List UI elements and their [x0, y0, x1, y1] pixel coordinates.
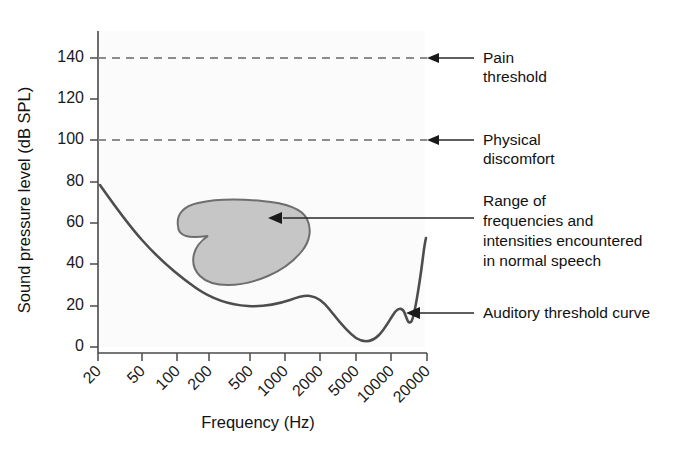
pain-threshold-label-line1: Pain — [483, 49, 514, 66]
y-tick-label-40: 40 — [66, 254, 84, 271]
pain-threshold-arrow-icon — [427, 53, 439, 63]
x-tick-label-200: 200 — [184, 362, 215, 393]
x-axis: 20 50 100 200 500 1000 2000 5000 10000 2… — [80, 353, 434, 431]
pain-threshold-label-line2: threshold — [483, 68, 547, 85]
y-tick-label-120: 120 — [57, 89, 84, 106]
chart-svg: 140 120 100 80 60 40 20 0 Sound pressure… — [0, 0, 689, 456]
plot-background — [98, 31, 425, 347]
x-tick-label-2000: 2000 — [289, 362, 326, 399]
physical-discomfort-annotation: Physical discomfort — [427, 131, 555, 167]
speech-range-label-line3: intensities encountered — [483, 232, 642, 249]
y-tick-label-80: 80 — [66, 172, 84, 189]
y-tick-label-60: 60 — [66, 213, 84, 230]
y-tick-label-0: 0 — [75, 337, 84, 354]
y-tick-label-20: 20 — [66, 296, 84, 313]
x-tick-label-10000: 10000 — [354, 362, 398, 406]
speech-range-label-line4: in normal speech — [483, 252, 601, 269]
auditory-curve-label: Auditory threshold curve — [483, 304, 650, 321]
x-tick-label-500: 500 — [225, 362, 256, 393]
physical-discomfort-label-line1: Physical — [483, 131, 541, 148]
y-tick-label-100: 100 — [57, 130, 84, 147]
x-tick-label-20: 20 — [80, 362, 105, 387]
physical-discomfort-arrow-icon — [427, 135, 439, 145]
speech-range-label-line2: frequencies and — [483, 212, 593, 229]
physical-discomfort-label-line2: discomfort — [483, 150, 555, 167]
pain-threshold-annotation: Pain threshold — [427, 49, 547, 85]
x-tick-label-50: 50 — [124, 362, 149, 387]
x-tick-label-100: 100 — [152, 362, 183, 393]
x-tick-label-1000: 1000 — [254, 362, 291, 399]
x-tick-label-20000: 20000 — [390, 362, 434, 406]
x-axis-title: Frequency (Hz) — [201, 413, 315, 431]
audiogram-figure: 140 120 100 80 60 40 20 0 Sound pressure… — [0, 0, 689, 456]
y-axis-title: Sound pressure level (dB SPL) — [15, 87, 33, 314]
auditory-curve-annotation: Auditory threshold curve — [406, 304, 650, 321]
speech-range-label-line1: Range of — [483, 192, 547, 209]
y-tick-label-140: 140 — [57, 48, 84, 65]
y-axis: 140 120 100 80 60 40 20 0 Sound pressure… — [15, 31, 98, 354]
